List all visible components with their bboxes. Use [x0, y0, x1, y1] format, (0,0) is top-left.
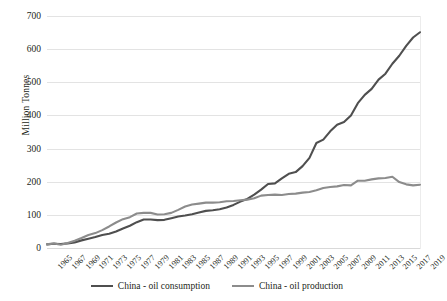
plot-area	[47, 16, 420, 248]
right-spine	[420, 16, 421, 249]
y-axis-tick-label: 500	[1, 77, 41, 87]
x-axis-line	[47, 248, 420, 249]
legend-item-label: China - oil production	[259, 281, 343, 291]
legend-item[interactable]: China - oil consumption	[91, 281, 210, 291]
y-axis-tick-label: 0	[1, 243, 41, 253]
y-axis-tick-label: 200	[1, 177, 41, 187]
legend-swatch-icon	[232, 285, 254, 288]
y-axis-tick-label: 600	[1, 44, 41, 54]
y-axis-tick-label: 300	[1, 144, 41, 154]
series-line	[47, 32, 420, 244]
legend-item[interactable]: China - oil production	[232, 281, 343, 291]
legend-swatch-icon	[91, 285, 113, 288]
y-axis-tick-label: 400	[1, 110, 41, 120]
chart-legend: China - oil consumptionChina - oil produ…	[0, 281, 434, 291]
x-axis-tick-label: 2019	[429, 253, 447, 271]
y-axis-title: Million Tonnes	[21, 35, 31, 175]
series-lines	[47, 16, 420, 248]
y-axis-tick-label: 100	[1, 210, 41, 220]
y-axis-tick-label: 700	[1, 11, 41, 21]
legend-item-label: China - oil consumption	[118, 281, 210, 291]
